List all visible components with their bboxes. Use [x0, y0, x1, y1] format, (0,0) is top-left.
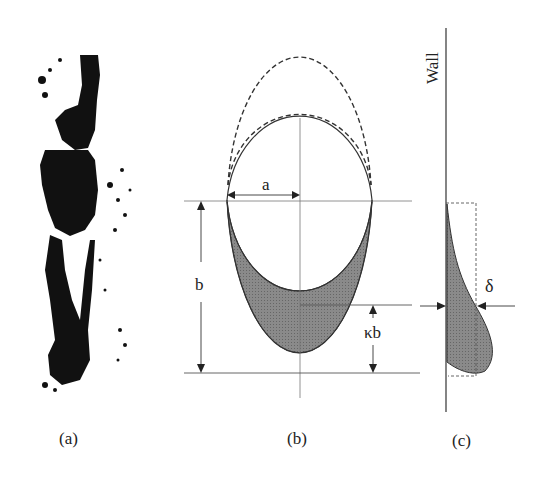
panel-c-diagram	[420, 28, 515, 412]
caption-b: (b)	[287, 429, 307, 448]
panel-a-photo	[38, 55, 132, 392]
panel-b-diagram	[184, 57, 420, 398]
diagram-svg: (a) a b κb (b)	[0, 0, 546, 484]
caption-a: (a)	[59, 429, 78, 448]
caption-c: (c)	[452, 431, 471, 450]
label-a: a	[262, 175, 270, 194]
label-b: b	[195, 275, 204, 294]
delta-label: δ	[485, 276, 493, 296]
label-kb: κb	[364, 323, 381, 342]
wall-label: Wall	[423, 52, 442, 84]
figure-canvas: (a) a b κb (b)	[0, 0, 546, 484]
